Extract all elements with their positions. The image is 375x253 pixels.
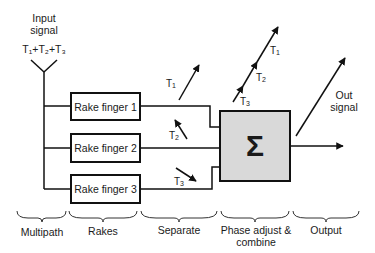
- t3-label: T3: [174, 176, 184, 189]
- out-signal-line1: Out: [324, 89, 364, 101]
- stage-label-separate: Separate: [148, 224, 210, 236]
- out-signal-label: Out signal: [324, 89, 364, 113]
- stage-braces: [17, 211, 359, 222]
- input-signal-label: Input signal: [25, 12, 63, 36]
- input-sum-label: T₁+T₂+T₃: [6, 43, 82, 55]
- brace-separate: [141, 211, 217, 222]
- rake-finger-3-label: Rake finger 3: [74, 183, 136, 195]
- combined-t1-label: T1: [270, 45, 280, 58]
- rake-finger-1-label: Rake finger 1: [74, 101, 136, 113]
- input-label-line2: signal: [25, 24, 63, 36]
- t1-arrow-icon: [179, 65, 199, 100]
- brace-phase: [221, 211, 289, 222]
- stage-label-multipath: Multipath: [12, 226, 72, 238]
- rake-finger-2-label: Rake finger 2: [74, 142, 136, 154]
- out-signal-line2: signal: [324, 101, 364, 113]
- t2-label: T2: [169, 130, 179, 143]
- stage-label-phase: Phase adjust & combine: [216, 224, 296, 248]
- rake-finger-3: Rake finger 3: [70, 174, 141, 204]
- input-label-line1: Input: [25, 12, 63, 24]
- finger1-output-line: [140, 106, 219, 127]
- combined-t3-label: T3: [240, 96, 250, 109]
- sigma-icon: Σ: [246, 129, 264, 163]
- brace-multipath: [17, 211, 66, 222]
- antenna-icon: [31, 60, 57, 189]
- combiner-box: Σ: [219, 110, 291, 182]
- stage-label-output: Output: [300, 224, 352, 236]
- diagram-lines: [0, 0, 375, 253]
- stage-label-phase-line2: combine: [216, 236, 296, 248]
- rake-finger-1: Rake finger 1: [70, 92, 141, 121]
- rake-finger-2: Rake finger 2: [70, 133, 141, 163]
- t1-label: T1: [166, 78, 176, 91]
- combined-t2-label: T2: [256, 72, 266, 85]
- brace-rakes: [69, 211, 137, 222]
- combined-arrow-icon: [233, 27, 278, 102]
- stage-label-rakes: Rakes: [75, 225, 131, 237]
- stage-label-phase-line1: Phase adjust &: [216, 224, 296, 236]
- brace-output: [293, 211, 359, 222]
